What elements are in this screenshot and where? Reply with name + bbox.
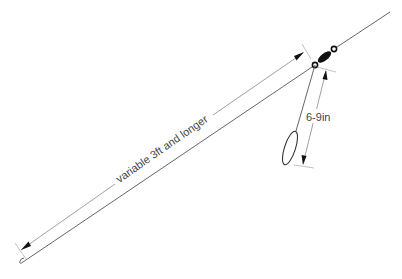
dimension-tick-left xyxy=(15,243,26,259)
dimension-tick-right xyxy=(302,44,311,59)
main-length-dimension: variable 3ft and longer xyxy=(15,44,311,259)
dimension-tick-bottom xyxy=(294,165,314,168)
arrowhead-bottom-icon xyxy=(302,155,307,165)
arrowhead-top-icon xyxy=(323,70,328,80)
dimension-line-right xyxy=(213,53,303,115)
main-length-label: variable 3ft and longer xyxy=(114,112,210,184)
dimension-tick-top xyxy=(317,67,336,72)
hook-end-icon xyxy=(20,258,24,263)
arrowhead-left-icon xyxy=(21,242,31,251)
dropper-length-label: 6-9in xyxy=(306,111,330,123)
dropper-loop-icon xyxy=(279,130,300,167)
main-line-lower xyxy=(23,65,315,262)
arrowhead-right-icon xyxy=(294,52,304,61)
rig-diagram: variable 3ft and longer 6-9in xyxy=(0,0,402,279)
main-line-upper xyxy=(334,12,390,49)
dimension-line-left xyxy=(21,184,115,250)
swivel-icon xyxy=(312,46,336,67)
